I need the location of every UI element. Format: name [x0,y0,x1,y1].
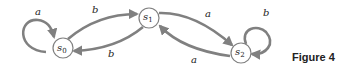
label-s2-s1: a [191,54,197,65]
label-s2-s2: b [263,7,269,18]
edge-s0-s0 [23,20,54,52]
figure-caption: Figure 4 [292,51,335,63]
edge-s1-s2 [159,13,232,45]
label-s1-s2: a [205,8,211,19]
state-s2: s2 [231,43,251,63]
label-s0-s0: a [35,6,41,17]
edge-s0-s1 [68,14,137,39]
label-s1-s0: b [108,48,114,59]
label-s0-s1: b [92,4,98,15]
state-s0: s0 [53,38,73,58]
edge-s2-s1 [160,26,230,56]
state-s1: s1 [139,8,159,28]
